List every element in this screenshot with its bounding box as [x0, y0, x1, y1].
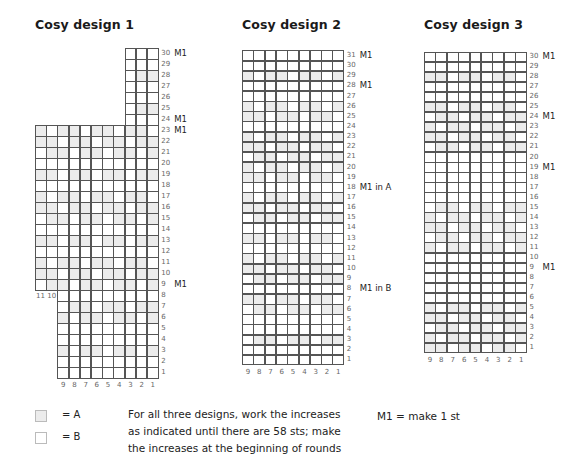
chart-cell — [481, 333, 493, 344]
chart-cell — [69, 147, 81, 159]
chart-cell — [458, 343, 470, 354]
chart-cell — [515, 82, 527, 93]
chart-cell — [332, 264, 344, 275]
chart-cell — [332, 274, 344, 285]
chart-cell — [147, 290, 159, 302]
row-number-label: 28 — [161, 72, 170, 79]
chart-cell — [136, 81, 148, 93]
chart-cell — [458, 283, 470, 294]
chart-cell — [147, 279, 159, 291]
chart-cell — [276, 223, 288, 234]
chart-cell — [447, 102, 459, 113]
chart-cell — [470, 122, 482, 133]
chart-cell — [470, 263, 482, 274]
chart-cell — [321, 111, 333, 122]
chart-cell — [287, 61, 299, 72]
chart-cell — [57, 279, 69, 291]
chart-cell — [424, 202, 436, 213]
chart-cell — [321, 162, 333, 173]
chart-cell — [147, 180, 159, 192]
chart-cell — [299, 355, 311, 366]
chart-cell — [481, 192, 493, 203]
chart-cell — [265, 243, 277, 254]
chart-cell — [113, 213, 125, 225]
chart-cell — [299, 243, 311, 254]
column-number-label: 11 — [36, 293, 45, 300]
chart-cell — [136, 257, 148, 269]
chart-cell — [504, 212, 516, 223]
chart-cell — [424, 112, 436, 123]
chart-cell — [147, 312, 159, 324]
chart-cell — [102, 191, 114, 203]
chart-cell — [69, 180, 81, 192]
chart-cell — [136, 301, 148, 313]
chart-cell — [492, 162, 504, 173]
chart-cell — [136, 158, 148, 170]
chart-cell — [125, 268, 137, 280]
chart-cell — [35, 257, 47, 269]
chart-cell — [91, 323, 103, 335]
chart-cell — [504, 82, 516, 93]
chart-cell — [515, 222, 527, 233]
chart-cell — [481, 323, 493, 334]
chart-cell — [458, 293, 470, 304]
chart-cell — [125, 92, 137, 104]
column-number-label: 6 — [95, 382, 99, 389]
row-number-label: 5 — [530, 304, 534, 311]
chart-cell — [447, 202, 459, 213]
chart-cell — [424, 162, 436, 173]
chart-cell — [253, 91, 265, 102]
chart-cell — [102, 334, 114, 346]
chart-cell — [265, 284, 277, 295]
chart-cell — [102, 323, 114, 335]
chart-cell — [57, 268, 69, 280]
chart-cell — [299, 324, 311, 335]
chart-cell — [136, 367, 148, 379]
chart-cell — [299, 345, 311, 356]
chart-cell — [276, 142, 288, 153]
chart-cell — [46, 235, 58, 247]
chart-cell — [276, 213, 288, 224]
chart-cell — [481, 132, 493, 143]
chart-cell — [136, 48, 148, 60]
chart-cell — [253, 81, 265, 92]
chart-cell — [147, 136, 159, 148]
chart-cell — [287, 294, 299, 305]
chart-cell — [424, 293, 436, 304]
row-number-label: 29 — [347, 72, 356, 79]
legend-swatch-a — [35, 410, 47, 422]
row-number-label: 4 — [347, 326, 351, 333]
chart-cell — [69, 301, 81, 313]
chart-cell — [310, 233, 322, 244]
chart-cell — [69, 356, 81, 368]
chart-cell — [242, 50, 254, 61]
chart-cell — [102, 180, 114, 192]
chart-cell — [276, 61, 288, 72]
chart-cell — [276, 121, 288, 132]
chart-cell — [35, 169, 47, 181]
chart-cell — [481, 303, 493, 314]
chart-cell — [265, 121, 277, 132]
chart-cell — [113, 367, 125, 379]
chart-cell — [69, 136, 81, 148]
chart-cell — [321, 264, 333, 275]
chart-cell — [492, 152, 504, 163]
chart-cell — [91, 301, 103, 313]
chart-cell — [435, 263, 447, 274]
chart-cell — [242, 81, 254, 92]
chart-cell — [492, 202, 504, 213]
chart-cell — [80, 180, 92, 192]
chart-cell — [265, 324, 277, 335]
chart-cell — [470, 112, 482, 123]
chart-cell — [470, 343, 482, 354]
chart-cell — [515, 333, 527, 344]
chart-cell — [253, 152, 265, 163]
chart-cell — [299, 264, 311, 275]
chart-cell — [276, 162, 288, 173]
chart-cell — [504, 333, 516, 344]
chart-cell — [287, 50, 299, 61]
chart-cell — [504, 122, 516, 133]
chart-cell — [470, 82, 482, 93]
chart-cell — [265, 192, 277, 203]
chart-cell — [242, 294, 254, 305]
